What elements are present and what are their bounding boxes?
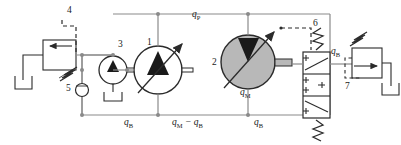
flow-label-qm: qM <box>240 88 251 99</box>
component-label-2: 2 <box>212 58 217 68</box>
relief-valve-4-body <box>43 40 76 70</box>
flow-sub-qb-valve: B <box>336 51 340 58</box>
junction-bottom-motor2 <box>246 113 250 117</box>
junction-top-pump1 <box>156 12 160 16</box>
relief-valve-4-tank-line <box>23 55 43 80</box>
component-label-4: 4 <box>67 6 72 16</box>
relief-valve-4 <box>15 18 113 89</box>
component-label-6: 6 <box>313 19 318 29</box>
tank-symbol-pump3 <box>104 92 122 101</box>
flow-label-qp: qP <box>192 10 200 21</box>
variable-pump-1-shaft <box>182 68 193 72</box>
junction-top-motor2 <box>246 12 250 16</box>
hydraulic-circuit-diagram: 4 3 1 5 2 6 7 qP qB qM − qB qB qM qB <box>0 0 401 145</box>
component-label-7: 7 <box>345 82 350 92</box>
flow-minus-operator: − q <box>183 117 199 127</box>
variable-motor-2-shaft <box>275 59 292 66</box>
relief-valve-7-spring <box>350 32 367 46</box>
directional-valve-6 <box>279 26 352 141</box>
relief-valve-7-tank-line <box>382 63 391 86</box>
flow-label-qm-minus-qb: qM − qB <box>172 118 203 129</box>
flow-label-qb-valve: qB <box>331 47 340 58</box>
flow-sub-qp: P <box>197 14 201 21</box>
component-label-1: 1 <box>147 38 152 48</box>
component-label-3: 3 <box>118 40 123 50</box>
pilot-line-6 <box>281 28 311 50</box>
directional-valve-6-body <box>303 52 330 118</box>
directional-valve-6-spring-bottom <box>313 120 323 141</box>
relief-valve-7-body <box>352 48 382 78</box>
flow-sub-qb-expr: B <box>198 122 202 129</box>
pilot-tap-6 <box>279 26 282 29</box>
check-valve-5-body <box>76 84 89 97</box>
flow-label-qb-mid: qB <box>254 118 263 129</box>
junction-bottom-pump1 <box>156 113 160 117</box>
flow-sub-qm-motor: M <box>245 92 251 99</box>
variable-pump-1 <box>127 14 193 115</box>
flow-label-qb-left: qB <box>124 118 133 129</box>
component-label-5: 5 <box>66 84 71 94</box>
flow-sub-qb-left: B <box>129 122 133 129</box>
flow-sub-qb-mid: B <box>259 122 263 129</box>
directional-valve-6-spring-top <box>313 28 323 50</box>
check-valve-5 <box>76 84 89 97</box>
relief-valve-7 <box>345 32 399 95</box>
charge-pump-3 <box>99 55 136 101</box>
